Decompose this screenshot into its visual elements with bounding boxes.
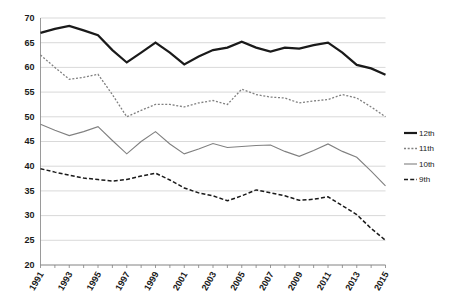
y-tick-label: 60 [24,62,34,72]
x-tick-label: 1993 [56,270,75,292]
y-tick-label: 55 [24,87,34,97]
x-tick-label: 2007 [257,270,276,292]
x-tick-label: 1991 [27,270,46,292]
legend-label-11th: 11th [419,144,434,153]
y-tick-label: 40 [24,161,34,171]
x-axis-tick-labels: 1991199319951997199920012003200520072009… [27,265,391,292]
series-line-10th [41,124,386,186]
y-tick-label: 45 [24,136,34,146]
line-chart: 2025303540455055606570 19911993199519971… [0,0,463,307]
gridlines [41,18,386,265]
x-tick-label: 2003 [200,270,219,292]
y-tick-label: 30 [24,210,34,220]
chart-series [41,26,386,240]
legend-label-12th: 12th [419,129,435,138]
x-tick-label: 1995 [85,270,104,292]
x-tick-label: 2001 [171,270,190,292]
y-tick-label: 35 [24,186,34,196]
chart-svg: 2025303540455055606570 19911993199519971… [0,0,463,307]
y-tick-label: 20 [24,260,34,270]
x-tick-label: 2009 [286,270,305,292]
series-line-11th [41,55,386,117]
x-tick-label: 2011 [315,270,333,292]
y-tick-label: 25 [24,235,34,245]
x-tick-label: 1999 [142,270,161,292]
x-tick-label: 2005 [228,270,247,292]
x-tick-label: 2015 [372,270,391,292]
chart-legend: 12th11th10th9th [404,129,435,185]
x-tick-label: 1997 [113,270,132,292]
y-axis-tick-labels: 2025303540455055606570 [24,13,34,270]
series-line-9th [41,169,386,241]
y-tick-label: 70 [24,13,34,23]
y-tick-label: 65 [24,38,34,48]
x-tick-label: 2013 [343,270,362,292]
legend-label-10th: 10th [419,160,435,169]
y-tick-label: 50 [24,112,34,122]
legend-label-9th: 9th [419,175,430,184]
